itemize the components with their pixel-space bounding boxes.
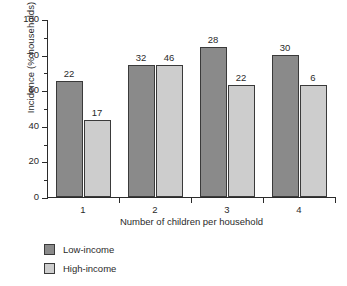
legend-swatch [44, 263, 55, 274]
bar-low-income-2: 32 [128, 65, 155, 197]
bar-value-label: 6 [310, 72, 315, 83]
bar-value-label: 22 [64, 68, 75, 79]
legend-label: Low-income [63, 244, 114, 255]
legend-item-high-income[interactable]: High-income [44, 259, 116, 278]
bar-value-label: 22 [236, 72, 247, 83]
bar-chart-figure: Incidence (% households) 020406080100 22… [0, 0, 347, 286]
x-tick-mark [191, 198, 192, 203]
x-tick-mark [119, 198, 120, 203]
x-axis-title: Number of children per household [47, 216, 336, 227]
bar-low-income-1: 22 [56, 81, 83, 197]
x-tick-label-1: 1 [80, 204, 85, 215]
x-tick-label-3: 3 [224, 204, 229, 215]
bar-high-income-1: 17 [84, 120, 111, 197]
bar-group-2: 32462 [119, 19, 191, 197]
y-tick-mark [42, 198, 47, 199]
y-tick-label: 100 [23, 13, 39, 24]
y-tick-label: 80 [28, 49, 39, 60]
bar-value-label: 32 [136, 52, 147, 63]
x-tick-mark [335, 198, 336, 203]
bar-low-income-4: 30 [272, 55, 299, 197]
chart-legend: Low-incomeHigh-income [44, 240, 116, 278]
legend-swatch [44, 244, 55, 255]
bar-group-1: 22171 [47, 19, 119, 197]
bar-group-4: 3064 [263, 19, 335, 197]
legend-item-low-income[interactable]: Low-income [44, 240, 116, 259]
x-tick-mark [263, 198, 264, 203]
x-tick-label-2: 2 [152, 204, 157, 215]
bar-low-income-3: 28 [200, 47, 227, 197]
bar-high-income-3: 22 [228, 85, 255, 197]
y-tick-label: 60 [28, 84, 39, 95]
x-tick-label-4: 4 [296, 204, 301, 215]
legend-label: High-income [63, 263, 116, 274]
y-tick-label: 20 [28, 155, 39, 166]
plot-area: 020406080100 2217132462282233064 [47, 20, 335, 198]
y-tick-label: 40 [28, 120, 39, 131]
bar-value-label: 46 [164, 52, 175, 63]
bar-high-income-2: 46 [156, 65, 183, 197]
bar-group-3: 28223 [191, 19, 263, 197]
bar-value-label: 28 [208, 34, 219, 45]
bar-high-income-4: 6 [300, 85, 327, 197]
bar-value-label: 30 [280, 42, 291, 53]
y-tick-label: 0 [34, 191, 39, 202]
bar-value-label: 17 [92, 107, 103, 118]
